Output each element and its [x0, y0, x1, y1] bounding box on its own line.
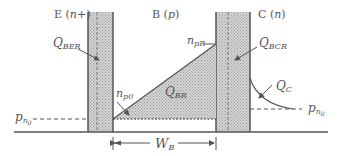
- emitter-junction-bar: [88, 12, 113, 132]
- q-ber-label: QBER: [53, 36, 81, 51]
- emitter-region-label: E (n+): [54, 8, 90, 21]
- w-b-label: WB: [155, 136, 174, 152]
- n-p0-label: np0: [116, 87, 133, 101]
- p-n0-left-label: pn0: [15, 110, 32, 126]
- q-c-pointer-arrow: [259, 85, 272, 98]
- n-pr-label: npR: [187, 34, 205, 48]
- collector-junction-bar: [216, 12, 250, 132]
- q-c-label: QC: [276, 79, 292, 94]
- p-n0-right-label: pn0: [308, 101, 325, 117]
- collector-region-label: C (n): [258, 8, 286, 21]
- q-bcr-label: QBCR: [259, 36, 287, 51]
- base-region-label: B (p): [152, 8, 179, 21]
- bjt-charge-diagram: E (n+) B (p) C (n) QBER QBCR QBR QC npR …: [0, 0, 341, 156]
- base-charge-triangle: [113, 44, 216, 119]
